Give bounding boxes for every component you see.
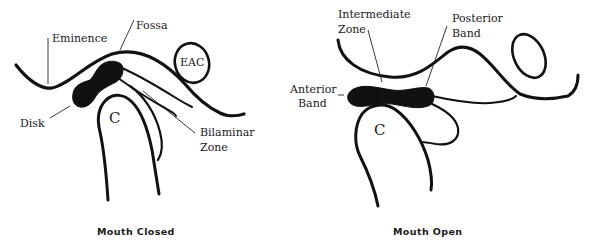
- posterior-attachment-line: [432, 96, 516, 103]
- disk-label: Disk: [20, 117, 45, 130]
- fossa-label: Fossa: [136, 19, 168, 32]
- condyle-outline: [98, 95, 159, 200]
- open-disk-shape: [348, 86, 434, 107]
- posterior-band-label-line1: Posterior: [452, 12, 504, 25]
- caption-mouth-closed: Mouth Closed: [97, 226, 175, 237]
- open-condyle-posterior-loop: [422, 104, 458, 144]
- open-eac-oval: [506, 29, 553, 83]
- intermediate-label-line2: Zone: [338, 23, 366, 36]
- fossa-leader: [120, 20, 134, 50]
- open-condyle-outline: [356, 105, 432, 206]
- anterior-band-label-line2: Band: [298, 97, 327, 110]
- panel-mouth-open: Intermediate Zone Posterior Band Anterio…: [289, 8, 578, 237]
- disk-leader: [50, 106, 70, 118]
- anterior-band-label-line1: Anterior: [289, 83, 337, 96]
- bilaminar-leader: [143, 91, 195, 133]
- eminence-label: Eminence: [52, 32, 107, 45]
- bilaminar-label-line1: Bilaminar: [200, 126, 255, 139]
- panel-mouth-closed: Eminence Fossa EAC Disk C Bilaminar Zone…: [16, 19, 255, 237]
- disk-shape: [73, 61, 123, 107]
- bilaminar-label-line2: Zone: [200, 141, 228, 154]
- tmj-diagram: Eminence Fossa EAC Disk C Bilaminar Zone…: [0, 0, 592, 243]
- condyle-label-closed: C: [109, 109, 120, 127]
- posterior-band-label-line2: Band: [452, 27, 481, 40]
- caption-mouth-open: Mouth Open: [393, 226, 462, 237]
- condyle-label-open: C: [374, 121, 385, 139]
- intermediate-label-line1: Intermediate: [338, 8, 411, 21]
- eac-label: EAC: [180, 56, 204, 69]
